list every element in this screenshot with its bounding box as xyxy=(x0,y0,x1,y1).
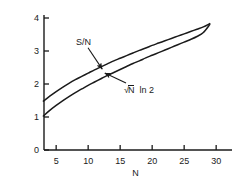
x-axis-title: N xyxy=(132,169,139,178)
x-axis-ticks xyxy=(56,145,216,150)
annotation-arrows xyxy=(88,48,126,83)
radicand-n: N xyxy=(128,85,135,95)
chart-figure: 0 1 2 3 4 5 10 15 20 25 30 N S/N √Nln 2 xyxy=(0,0,236,185)
annotation-sqrtn-ln2-label: √Nln 2 xyxy=(124,85,154,95)
arrow-to-sn-curve xyxy=(88,48,102,69)
y-tick-label-4: 4 xyxy=(25,14,39,23)
y-tick-label-0: 0 xyxy=(25,146,39,155)
y-axis-ticks xyxy=(44,18,49,150)
sqrt-symbol-group: √N xyxy=(124,85,134,95)
x-tick-label-5: 5 xyxy=(47,157,65,166)
ln2-text: ln 2 xyxy=(139,85,154,95)
x-tick-label-20: 20 xyxy=(143,157,161,166)
y-tick-label-3: 3 xyxy=(25,47,39,56)
arrow-to-sqrtn-curve xyxy=(105,73,126,83)
y-tick-label-2: 2 xyxy=(25,80,39,89)
x-tick-label-15: 15 xyxy=(111,157,129,166)
data-curves xyxy=(43,24,209,116)
y-tick-label-1: 1 xyxy=(25,113,39,122)
annotation-sn-label: S/N xyxy=(76,38,91,47)
x-tick-label-10: 10 xyxy=(79,157,97,166)
series-line-sqrtn-ln2 xyxy=(43,25,209,116)
x-tick-label-30: 30 xyxy=(207,157,225,166)
x-tick-label-25: 25 xyxy=(175,157,193,166)
